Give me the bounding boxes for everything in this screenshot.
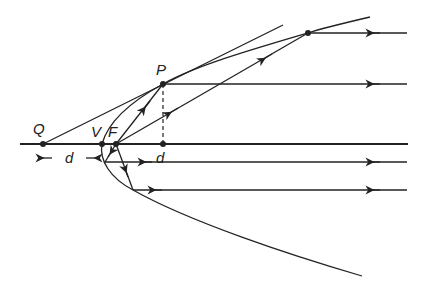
point-P <box>160 81 166 87</box>
reflected-ray-R <box>116 33 308 144</box>
point-V <box>99 141 105 147</box>
reflected-ray-lower-2 <box>116 144 133 190</box>
label-d-right: d <box>156 150 164 165</box>
point-Q <box>40 141 46 147</box>
parabola-diagram: P Q V F d d <box>0 0 424 290</box>
arrow-P-reflect <box>143 101 150 110</box>
point-P-foot <box>160 141 166 147</box>
arrow-R-reflect-2 <box>168 108 178 114</box>
label-F: F <box>108 124 117 139</box>
label-d-left: d <box>65 150 73 165</box>
label-Q: Q <box>33 121 45 136</box>
diagram-canvas <box>0 0 424 290</box>
label-V: V <box>91 124 101 139</box>
parabola-curve <box>102 17 370 276</box>
point-R <box>305 30 311 36</box>
arrow-lower-1-reflect <box>108 151 112 157</box>
point-F <box>113 141 119 147</box>
arrow-R-reflect <box>262 54 272 60</box>
label-P: P <box>156 62 166 77</box>
reflected-ray-P <box>116 84 163 144</box>
arrow-lower-2-reflect <box>125 169 128 177</box>
